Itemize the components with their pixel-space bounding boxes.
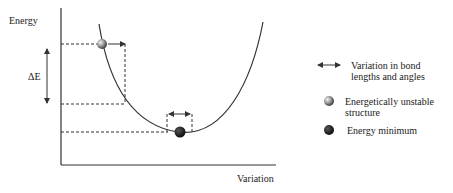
legend-text: Variation in bond (351, 60, 425, 71)
x-axis-label: Variation (237, 173, 274, 185)
legend-item-minimum: Energy minimum (347, 125, 417, 136)
legend-item-bond-variation: Variation in bond lengths and angles (351, 60, 425, 82)
gray-sphere-icon (324, 96, 334, 106)
legend-item-unstable: Energetically unstable structure (345, 96, 434, 118)
axes (61, 8, 276, 165)
black-sphere-icon (324, 125, 334, 135)
minimum-sphere-icon (175, 127, 186, 138)
energy-curve (99, 22, 263, 132)
dashed-guides (61, 44, 192, 132)
delta-e-label: ΔE (28, 71, 41, 83)
unstable-sphere-icon (97, 39, 107, 49)
legend-text: Energy minimum (347, 125, 417, 136)
legend-text: lengths and angles (351, 71, 425, 82)
legend-text: structure (345, 107, 434, 118)
y-axis-label: Energy (9, 15, 38, 27)
legend-text: Energetically unstable (345, 96, 434, 107)
